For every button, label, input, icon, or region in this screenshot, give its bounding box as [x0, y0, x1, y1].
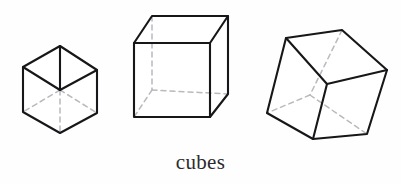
- shape-large-tilted-cube: [267, 30, 387, 139]
- cube2-body-fill: [134, 16, 228, 117]
- shape-medium-cabinet-cube: [134, 16, 228, 117]
- figure-caption: cubes: [0, 149, 401, 175]
- shape-small-isometric-cube: [23, 46, 97, 133]
- figure-page: cubes: [0, 0, 401, 184]
